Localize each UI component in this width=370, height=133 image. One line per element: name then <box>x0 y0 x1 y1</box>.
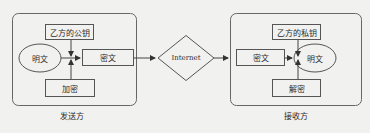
sender-title: 发送方 <box>52 112 92 122</box>
receiver-ciphertext-label: 密文 <box>236 49 285 66</box>
sender-encrypt-label: 加密 <box>45 79 95 97</box>
internet-label: Internet <box>166 51 206 65</box>
sender-plaintext-label: 明文 <box>19 50 61 66</box>
encryption-diagram: 乙方的公钥 明文 密文 加密 发送方 Internet 乙方的私钥 密文 明文 … <box>0 0 370 133</box>
sender-ciphertext-label: 密文 <box>82 49 134 66</box>
sender-key-label: 乙方的公钥 <box>45 24 94 40</box>
receiver-key-label: 乙方的私钥 <box>272 24 321 40</box>
receiver-decrypt-label: 解密 <box>272 79 321 97</box>
receiver-plaintext-label: 明文 <box>294 50 336 66</box>
receiver-title: 接收方 <box>276 112 316 122</box>
